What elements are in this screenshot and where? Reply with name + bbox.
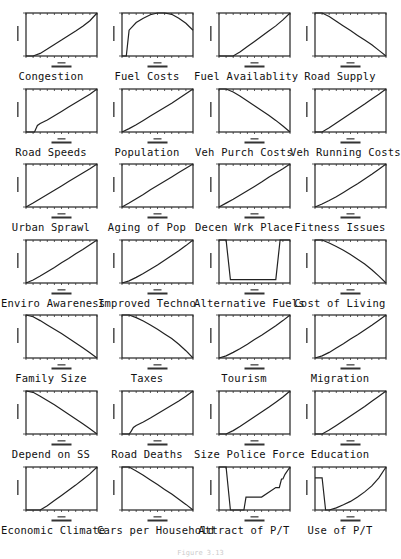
data-line: [26, 315, 97, 358]
line-plot: [97, 151, 197, 221]
data-line: [219, 164, 290, 207]
data-line: [26, 391, 97, 434]
chart-panel: Population: [97, 76, 197, 152]
chart-panel: Use of P/T: [290, 454, 390, 530]
line-plot: [1, 454, 101, 524]
data-line: [219, 13, 290, 56]
chart-panel: Attract of P/T: [194, 454, 294, 530]
chart-panel: Economic Climate: [1, 454, 101, 530]
chart-title: Use of P/T: [290, 524, 390, 536]
chart-panel: Improved Techno: [97, 227, 197, 303]
line-plot: [1, 227, 101, 297]
chart-panel: Fuel Availablity: [194, 0, 294, 76]
line-plot: [1, 0, 101, 70]
line-plot: [1, 76, 101, 146]
data-line: [26, 89, 97, 132]
chart-panel: Cars per Household: [97, 454, 197, 530]
line-plot: [194, 0, 294, 70]
data-line: [122, 467, 193, 510]
data-line: [122, 13, 193, 56]
line-plot: [1, 151, 101, 221]
chart-panel: Family Size: [1, 302, 101, 378]
chart-panel: Enviro Awareness: [1, 227, 101, 303]
chart-panel: Urban Sprawl: [1, 151, 101, 227]
chart-grid: CongestionFuel CostsFuel AvailablityRoad…: [0, 0, 401, 559]
chart-panel: Cost of Living: [290, 227, 390, 303]
chart-panel: Veh Running Costs: [290, 76, 390, 152]
line-plot: [97, 454, 197, 524]
chart-title: Attract of P/T: [194, 524, 294, 536]
data-line: [26, 164, 97, 207]
chart-panel: Fitness Issues: [290, 151, 390, 227]
chart-panel: Fuel Costs: [97, 0, 197, 76]
chart-title: Cars per Household: [97, 524, 197, 536]
line-plot: [290, 378, 390, 448]
chart-panel: Tourism: [194, 302, 294, 378]
data-line: [315, 240, 386, 283]
line-plot: [97, 227, 197, 297]
chart-panel: Depend on SS: [1, 378, 101, 454]
line-plot: [1, 378, 101, 448]
line-plot: [194, 151, 294, 221]
data-line: [26, 467, 97, 510]
chart-panel: Education: [290, 378, 390, 454]
data-line: [219, 89, 290, 132]
chart-panel: Road Supply: [290, 0, 390, 76]
data-line: [122, 164, 193, 207]
data-line: [122, 240, 193, 283]
chart-title: Economic Climate: [1, 524, 101, 536]
line-plot: [194, 454, 294, 524]
line-plot: [97, 76, 197, 146]
chart-panel: Decen Wrk Place: [194, 151, 294, 227]
line-plot: [290, 227, 390, 297]
line-plot: [194, 302, 294, 372]
chart-panel: Size Police Force: [194, 378, 294, 454]
line-plot: [194, 227, 294, 297]
chart-panel: Road Speeds: [1, 76, 101, 152]
chart-panel: Veh Purch Costs: [194, 76, 294, 152]
chart-panel: Road Deaths: [97, 378, 197, 454]
data-line: [26, 240, 97, 283]
data-line: [219, 240, 290, 280]
line-plot: [1, 302, 101, 372]
chart-panel: Congestion: [1, 0, 101, 76]
data-line: [122, 315, 193, 358]
line-plot: [97, 378, 197, 448]
line-plot: [194, 76, 294, 146]
line-plot: [290, 151, 390, 221]
line-plot: [97, 0, 197, 70]
data-line: [315, 13, 386, 56]
data-line: [315, 467, 386, 510]
figure-caption: Figure 3.13: [0, 549, 401, 557]
data-line: [219, 315, 290, 358]
line-plot: [290, 302, 390, 372]
line-plot: [194, 378, 294, 448]
data-line: [219, 467, 290, 510]
line-plot: [290, 76, 390, 146]
chart-panel: Aging of Pop: [97, 151, 197, 227]
chart-panel: Migration: [290, 302, 390, 378]
line-plot: [290, 454, 390, 524]
data-line: [315, 391, 386, 434]
chart-panel: Alternative Fuels: [194, 227, 294, 303]
data-line: [315, 164, 386, 207]
data-line: [122, 89, 193, 132]
line-plot: [97, 302, 197, 372]
data-line: [315, 315, 386, 358]
data-line: [26, 13, 97, 56]
line-plot: [290, 0, 390, 70]
data-line: [315, 89, 386, 132]
data-line: [219, 391, 290, 434]
data-line: [122, 391, 193, 434]
chart-panel: Taxes: [97, 302, 197, 378]
